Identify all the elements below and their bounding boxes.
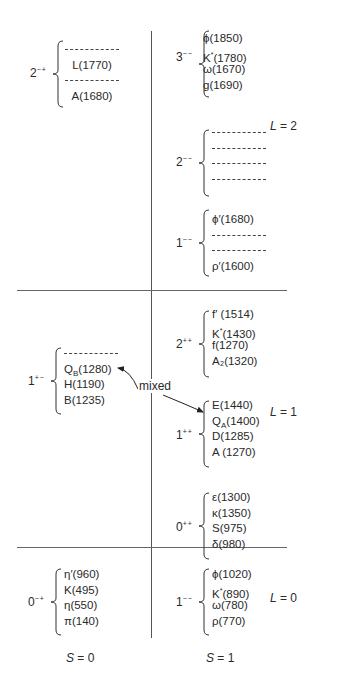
mixed-arrow-to-QB	[118, 368, 138, 389]
orbital-label-L0-text: = 0	[277, 591, 297, 605]
orbital-label-L1: L = 1	[270, 405, 297, 419]
orbital-label-L2-text: = 2	[277, 119, 297, 133]
orbital-label-L1-text: = 1	[277, 405, 297, 419]
spin-label-S1: S = 1	[206, 651, 234, 665]
mixed-arrow-to-QA	[163, 395, 203, 412]
orbital-label-L2: L = 2	[270, 119, 297, 133]
spin-label-S0-text: = 0	[74, 651, 94, 665]
spin-label-S1-text: = 1	[214, 651, 234, 665]
spin-label-S0: S = 0	[66, 651, 94, 665]
mixed-label: mixed	[138, 379, 172, 393]
orbital-label-L0: L = 0	[270, 591, 297, 605]
